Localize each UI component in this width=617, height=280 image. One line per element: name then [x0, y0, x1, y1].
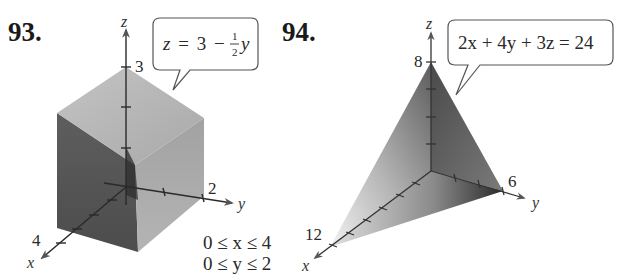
callout-equation: z = 3 −	[162, 33, 225, 54]
figure-canvas: 93. z y x	[0, 0, 617, 280]
x-axis-label: x	[26, 254, 34, 271]
x-axis-label: x	[301, 257, 309, 274]
rectangular-solid	[57, 67, 204, 252]
tetrahedron	[330, 62, 503, 247]
problem-number: 94.	[282, 17, 316, 47]
equation-callout: 2x + 4y + 3z = 24	[448, 20, 613, 95]
callout-equation: 2x + 4y + 3z = 24	[458, 32, 594, 53]
z-tick-label: 3	[135, 57, 144, 76]
z-axis-label: z	[425, 15, 433, 32]
y-axis-label: y	[236, 195, 246, 213]
z-tick-label: 8	[414, 52, 423, 71]
constraint-x: 0 ≤ x ≤ 4	[203, 232, 272, 253]
fraction-numerator: 1	[232, 30, 238, 42]
equation-callout: z = 3 − 1 2 y	[153, 18, 258, 90]
callout-variable: y	[239, 33, 250, 54]
y-tick-label: 2	[208, 179, 217, 198]
callout-bubble	[153, 18, 258, 90]
z-axis-label: z	[120, 13, 128, 30]
y-axis-label: y	[530, 194, 540, 212]
x-tick-label: 4	[32, 231, 41, 250]
problem-93: 93. z y x	[8, 13, 272, 274]
problem-number: 93.	[8, 17, 42, 47]
constraint-y: 0 ≤ y ≤ 2	[203, 253, 271, 274]
problem-94: 94. z	[282, 15, 613, 274]
y-tick-label: 6	[508, 172, 517, 191]
fraction-denominator: 2	[232, 46, 238, 58]
x-tick-label: 12	[305, 225, 322, 244]
